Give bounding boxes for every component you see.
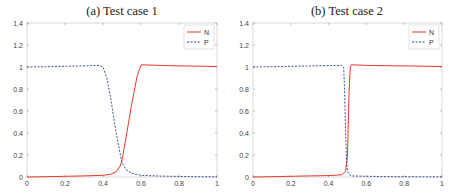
- y-tick-label: 1.4: [13, 20, 23, 27]
- y-tick-label: 0.8: [239, 86, 249, 93]
- x-tick-label: 0.4: [324, 180, 334, 187]
- x-tick-label: 0.6: [136, 180, 146, 187]
- y-tick-label: 0.4: [13, 130, 23, 137]
- y-tick-label: 0: [245, 174, 249, 181]
- y-tick-label: 1.4: [239, 20, 249, 27]
- x-tick-label: 0: [251, 180, 255, 187]
- x-tick-label: 0.4: [98, 180, 108, 187]
- legend-label-P: P: [429, 39, 434, 46]
- plot-area-1: 00.20.40.60.8100.20.40.60.811.21.4NP: [239, 20, 444, 188]
- y-tick-label: 0.6: [13, 108, 23, 115]
- x-tick-label: 0.6: [362, 180, 372, 187]
- x-tick-label: 0: [25, 180, 29, 187]
- plot-area-0: 00.20.40.60.8100.20.40.60.811.21.4NP: [13, 20, 219, 188]
- legend-label-N: N: [204, 29, 209, 36]
- x-tick-label: 0.8: [174, 180, 184, 187]
- legend: NP: [184, 25, 214, 49]
- y-tick-label: 0: [19, 174, 23, 181]
- y-tick-label: 0.4: [239, 130, 249, 137]
- y-tick-label: 0.2: [239, 152, 249, 159]
- x-tick-label: 1: [440, 180, 444, 187]
- y-tick-label: 0.8: [13, 86, 23, 93]
- y-tick-label: 0.6: [239, 108, 249, 115]
- y-tick-label: 1: [19, 64, 23, 71]
- y-tick-label: 1.2: [13, 42, 23, 49]
- legend-label-N: N: [429, 29, 434, 36]
- x-tick-label: 0.2: [286, 180, 296, 187]
- legend-label-P: P: [204, 39, 209, 46]
- x-tick-label: 0.8: [399, 180, 409, 187]
- x-tick-label: 1: [215, 180, 219, 187]
- y-tick-label: 0.2: [13, 152, 23, 159]
- y-tick-label: 1: [245, 64, 249, 71]
- chart-canvas: 00.20.40.60.8100.20.40.60.811.21.4NP00.2…: [0, 0, 455, 194]
- y-tick-label: 1.2: [239, 42, 249, 49]
- x-tick-label: 0.2: [60, 180, 70, 187]
- legend: NP: [409, 25, 439, 49]
